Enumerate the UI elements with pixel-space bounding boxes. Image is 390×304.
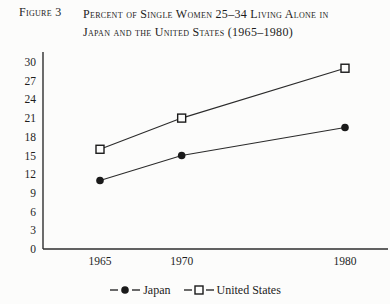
x-tick-label: 1970 bbox=[170, 255, 193, 267]
figure-title: Percent of Single Women 25–34 Living Alo… bbox=[83, 5, 383, 41]
data-point-united-states bbox=[341, 64, 349, 72]
data-point-japan bbox=[96, 177, 104, 185]
y-tick-label: 0 bbox=[30, 243, 36, 255]
chart-legend: JapanUnited States bbox=[0, 280, 390, 300]
line-chart-area: 036912151821242730196519701980 bbox=[0, 50, 390, 280]
figure-title-line-1: Percent of Single Women 25–34 Living Alo… bbox=[83, 5, 383, 23]
data-point-japan bbox=[178, 152, 186, 160]
scanned-figure-page: Figure 3 Percent of Single Women 25–34 L… bbox=[0, 0, 390, 304]
data-point-japan bbox=[341, 124, 349, 132]
series-line-united-states bbox=[100, 68, 345, 149]
legend-item-japan: Japan bbox=[109, 283, 170, 298]
y-tick-label: 9 bbox=[30, 187, 36, 199]
y-tick-label: 27 bbox=[25, 75, 37, 87]
y-tick-label: 18 bbox=[25, 131, 37, 143]
y-tick-label: 15 bbox=[25, 150, 37, 162]
y-tick-label: 24 bbox=[25, 93, 37, 105]
y-tick-label: 21 bbox=[25, 112, 37, 124]
data-point-united-states bbox=[96, 145, 104, 153]
legend-item-united-states: United States bbox=[183, 283, 281, 298]
y-tick-label: 12 bbox=[25, 168, 37, 180]
open-square-marker-icon bbox=[183, 284, 215, 296]
figure-title-line-2: Japan and the United States (1965–1980) bbox=[83, 23, 383, 41]
x-tick-label: 1980 bbox=[334, 255, 357, 267]
legend-label: United States bbox=[217, 283, 281, 298]
y-tick-label: 3 bbox=[30, 224, 36, 236]
figure-label: Figure 3 bbox=[19, 5, 62, 20]
legend-label: Japan bbox=[143, 283, 170, 298]
y-tick-label: 30 bbox=[25, 56, 37, 68]
x-tick-label: 1965 bbox=[89, 255, 112, 267]
filled-circle-marker-icon bbox=[109, 284, 141, 296]
data-point-united-states bbox=[178, 114, 186, 122]
y-tick-label: 6 bbox=[30, 206, 36, 218]
